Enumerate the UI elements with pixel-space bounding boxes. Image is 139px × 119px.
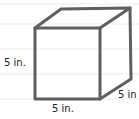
- height-label: 5 in.: [4, 58, 26, 68]
- cube-top-face: [35, 8, 130, 28]
- cube-edges: [35, 8, 131, 99]
- cube-front-face: [35, 28, 100, 99]
- width-label: 5 in.: [52, 104, 74, 114]
- cube-right-face: [100, 8, 131, 99]
- ruled-lines: [0, 4, 139, 99]
- depth-label: 5 in: [118, 90, 137, 100]
